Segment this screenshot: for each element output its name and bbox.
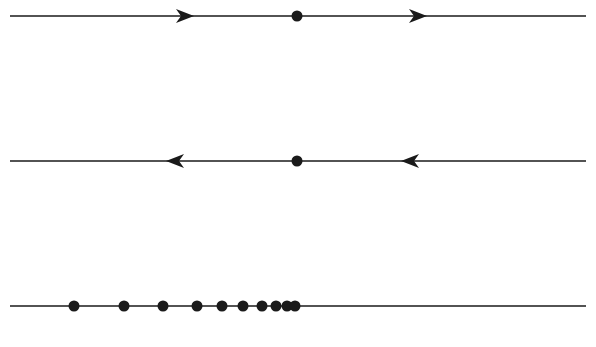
sequence-point-dot	[238, 301, 249, 312]
sequence-point-dot	[217, 301, 228, 312]
fixed-point-dot	[292, 11, 303, 22]
sequence-point-dot	[192, 301, 203, 312]
fixed-point-dot	[292, 156, 303, 167]
sequence-point-dot	[257, 301, 268, 312]
sequence-point-dot	[158, 301, 169, 312]
sequence-point-dot	[119, 301, 130, 312]
diagram-canvas	[0, 0, 596, 347]
sequence-point-dot	[290, 301, 301, 312]
sequence-point-dot	[69, 301, 80, 312]
sequence-point-dot	[271, 301, 282, 312]
